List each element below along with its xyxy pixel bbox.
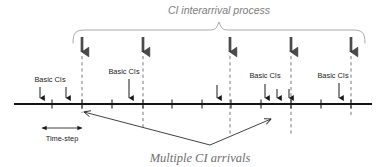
basic-ci-label: Basic CIs <box>249 71 281 80</box>
timeline-diagram: CI interarrival process <box>0 0 384 167</box>
title-top: CI interarrival process <box>168 4 271 16</box>
time-step-label: Time-step <box>46 134 79 143</box>
basic-ci-arrows <box>40 79 339 98</box>
timeline-axis <box>14 100 372 109</box>
multiple-ci-pointer <box>84 112 271 145</box>
ci-arrival-arrows <box>82 37 351 52</box>
figure-canvas: CI interarrival process <box>0 0 384 167</box>
basic-ci-label: Basic CIs <box>34 75 66 84</box>
title-bottom: Multiple CI arrivals <box>149 151 251 165</box>
basic-ci-label: Basic CIs <box>108 67 140 76</box>
interarrival-brace <box>73 22 365 43</box>
basic-ci-label: Basic CIs <box>317 71 349 80</box>
time-step-measure: Time-step <box>42 128 82 143</box>
